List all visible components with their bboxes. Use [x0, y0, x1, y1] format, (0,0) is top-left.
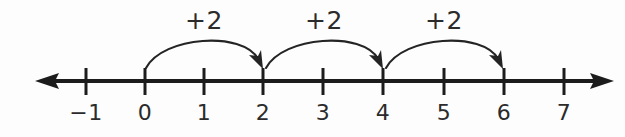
jump-arc-2-to-4: +2: [266, 6, 383, 69]
jump-arrowhead-icon-1: [249, 50, 263, 69]
tick-label-6: 6: [497, 100, 512, 125]
tick-label-3: 3: [316, 100, 331, 125]
jump-arc-0-to-2: +2: [146, 6, 263, 69]
jump-arrowhead-icon-2: [369, 50, 383, 69]
jump-arc-curve-3: [386, 41, 498, 68]
jump-arc-curve-2: [266, 41, 378, 68]
tick-label-4: 4: [376, 100, 391, 125]
jump-label-1: +2: [185, 6, 223, 35]
tick-label-1: 1: [197, 100, 212, 125]
jump-label-2: +2: [305, 6, 343, 35]
jump-arrowhead-icon-3: [489, 50, 503, 69]
jump-label-3: +2: [425, 6, 463, 35]
number-line-figure: −1 0 1 2 3 4 5 6 7 +2 +2 +2: [0, 0, 625, 137]
tick-label-0: 0: [138, 100, 153, 125]
jump-arc-curve-1: [146, 41, 258, 68]
tick-label-7: 7: [557, 100, 572, 125]
tick-label-neg1: −1: [69, 100, 102, 125]
jump-arc-4-to-6: +2: [386, 6, 503, 69]
number-line-diagram: −1 0 1 2 3 4 5 6 7 +2 +2 +2: [0, 0, 625, 137]
tick-label-2: 2: [256, 100, 271, 125]
tick-label-5: 5: [437, 100, 452, 125]
